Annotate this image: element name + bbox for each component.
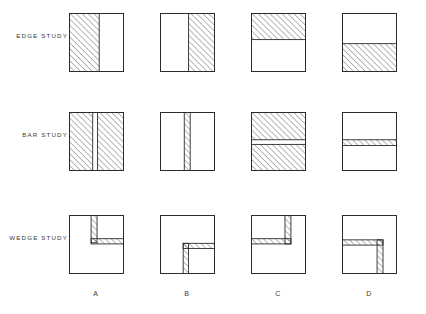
panel-bar-study-c	[251, 112, 306, 171]
panel-edge-study-d	[342, 13, 397, 72]
figure-canvas: EDGE STUDY BAR STUDY WEDGE STUDY A B C D	[0, 0, 426, 314]
column-label-b: B	[177, 290, 197, 297]
column-label-c: C	[268, 290, 288, 297]
panel-wedge-study-a	[69, 215, 124, 274]
panel-wedge-study-c	[251, 215, 306, 274]
panel-bar-study-d	[342, 112, 397, 171]
panel-edge-study-b	[160, 13, 215, 72]
panel-bar-study-a	[69, 112, 124, 171]
row-label-edge-study: EDGE STUDY	[2, 32, 68, 39]
panel-edge-study-a	[69, 13, 124, 72]
row-label-wedge-study: WEDGE STUDY	[2, 234, 68, 241]
panel-wedge-study-d	[342, 215, 397, 274]
panel-bar-study-b	[160, 112, 215, 171]
column-label-a: A	[86, 290, 106, 297]
column-label-d: D	[359, 290, 379, 297]
panel-edge-study-c	[251, 13, 306, 72]
row-label-bar-study: BAR STUDY	[2, 131, 68, 138]
panel-wedge-study-b	[160, 215, 215, 274]
